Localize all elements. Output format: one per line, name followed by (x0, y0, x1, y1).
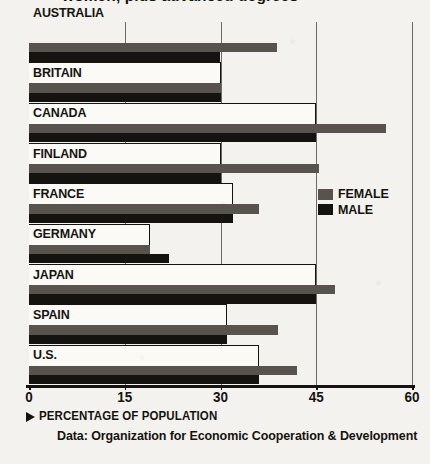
bar-male-finland (29, 173, 221, 182)
bar-female-britain (29, 83, 221, 92)
chart-row: BRITAIN (29, 62, 412, 102)
bar-male-japan (29, 294, 316, 303)
country-label-canada: CANADA (29, 103, 316, 124)
bar-male-us (29, 375, 259, 384)
legend-swatch-female (318, 189, 333, 200)
country-label-france: FRANCE (29, 183, 233, 204)
legend-label-female: FEMALE (338, 188, 389, 202)
bar-female-canada (29, 124, 386, 133)
chart-row: U.S. (29, 345, 412, 385)
bar-male-france (29, 214, 233, 223)
country-label-us: U.S. (29, 345, 259, 366)
bar-female-spain (29, 325, 278, 334)
country-label-germany: GERMANY (29, 224, 150, 245)
axis-caption: PERCENTAGE OF POPULATION (26, 411, 217, 423)
country-label-finland: FINLAND (29, 143, 221, 164)
source-note: Data: Organization for Economic Cooperat… (57, 430, 417, 443)
chart-row: JAPAN (29, 264, 412, 304)
bar-male-canada (29, 133, 316, 142)
country-label-text: FINLAND (29, 147, 87, 161)
x-tick-label-0: 0 (25, 391, 33, 405)
legend-item-male: MALE (318, 204, 389, 217)
country-label-text: FRANCE (29, 188, 84, 202)
grid-line-60 (412, 22, 413, 385)
country-label-japan: JAPAN (29, 264, 316, 285)
country-label-text: GERMANY (29, 228, 96, 242)
country-label-britain: BRITAIN (29, 62, 221, 83)
bar-female-france (29, 204, 259, 213)
country-label-text: U.S. (29, 349, 57, 363)
chart-row: GERMANY (29, 224, 412, 264)
bar-female-us (29, 366, 297, 375)
bar-female-finland (29, 164, 319, 173)
triangle-bullet-icon (26, 412, 35, 422)
chart-legend: FEMALEMALE (318, 188, 389, 219)
bar-male-britain (29, 93, 221, 102)
chart-row: SPAIN (29, 304, 412, 344)
bar-male-germany (29, 254, 169, 263)
x-tick-label-15: 15 (117, 391, 132, 405)
chart-row: CANADA (29, 103, 412, 143)
country-label-text: CANADA (29, 107, 86, 121)
bar-female-germany (29, 245, 150, 254)
x-tick-label-45: 45 (309, 391, 324, 405)
bar-female-japan (29, 285, 335, 294)
x-tick-label-30: 30 (213, 391, 228, 405)
axis-caption-label: PERCENTAGE OF POPULATION (39, 411, 217, 423)
country-label-text: BRITAIN (29, 67, 82, 81)
chart-row: FINLAND (29, 143, 412, 183)
bar-female-australia (29, 43, 277, 52)
country-label-text: JAPAN (29, 268, 74, 282)
bar-male-spain (29, 335, 227, 344)
country-label-text: SPAIN (29, 309, 70, 323)
legend-swatch-male (318, 204, 333, 215)
bar-male-australia (29, 52, 220, 61)
legend-label-male: MALE (338, 203, 373, 217)
country-label-text: AUSTRALIA (29, 7, 104, 21)
country-label-australia: AUSTRALIA (29, 5, 220, 22)
x-tick-label-60: 60 (404, 391, 419, 405)
chart-row: AUSTRALIA (29, 22, 412, 62)
legend-item-female: FEMALE (318, 188, 389, 201)
country-label-spain: SPAIN (29, 304, 227, 325)
